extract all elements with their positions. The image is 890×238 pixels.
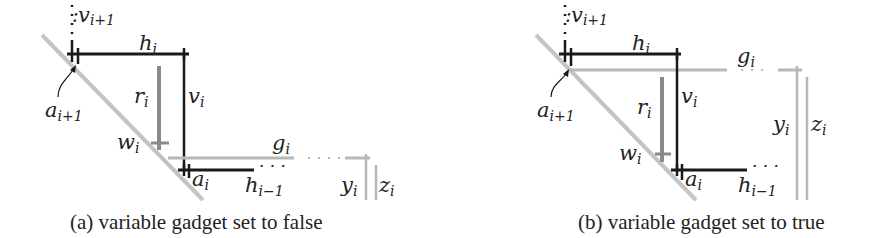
label-v: vi — [681, 84, 697, 110]
a-next-arrow — [551, 74, 566, 97]
caption-a: (a) variable gadget set to false — [70, 210, 322, 234]
label-a-next: ai+1 — [45, 98, 83, 124]
label-v-next: vi+1 — [571, 3, 608, 28]
label-a-next: ai+1 — [537, 98, 575, 124]
label-w: wi — [619, 141, 641, 167]
label-h-prev-ellipsis: · · · — [752, 156, 779, 176]
label-v: vi — [188, 84, 204, 110]
label-h: hi — [632, 31, 650, 57]
label-r: ri — [134, 84, 149, 110]
label-h-prev: hi−1 — [245, 173, 284, 199]
label-h: hi — [139, 31, 157, 57]
label-y: yi — [772, 112, 789, 138]
panel-b: : vi+1 hi gi ai+1 ri vi wi ai · · · hi−1… — [536, 3, 827, 234]
label-g: gi — [272, 131, 290, 157]
label-z: zi — [378, 173, 395, 199]
label-r: ri — [637, 95, 652, 121]
label-h-prev: hi−1 — [738, 173, 777, 199]
label-v-next: vi+1 — [78, 3, 115, 28]
label-z: zi — [810, 112, 827, 138]
a-next-arrow — [58, 70, 73, 97]
caption-b: (b) variable gadget set to true — [578, 210, 825, 234]
label-y: yi — [340, 173, 357, 199]
variable-gadget-figure: : vi+1 hi ai+1 ri vi wi gi ai · · · hi−1… — [0, 0, 890, 238]
panel-a: : vi+1 hi ai+1 ri vi wi gi ai · · · hi−1… — [42, 3, 395, 234]
label-g: gi — [737, 44, 755, 70]
label-h-prev-ellipsis: · · · — [259, 156, 286, 176]
